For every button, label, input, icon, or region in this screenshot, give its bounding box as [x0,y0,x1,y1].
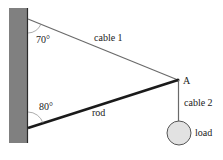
wall [9,8,27,143]
angle-label-70: 70° [36,34,50,45]
angle-arc-70 [28,24,41,33]
load-label: load [195,127,212,138]
cable-1 [28,19,178,80]
rod-label: rod [92,107,105,118]
load [167,121,191,145]
point-a-label: A [183,75,191,86]
angle-arc-80 [28,112,43,123]
cable-2-label: cable 2 [184,97,213,108]
angle-label-80: 80° [39,101,53,112]
cable-1-label: cable 1 [94,32,123,43]
diagram-canvas: 70° cable 1 A 80° rod cable 2 load [0,0,223,160]
